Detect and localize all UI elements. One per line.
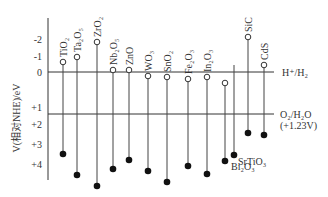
- conduction-band-marker: [60, 59, 66, 65]
- material-label: ZrO₂: [92, 17, 103, 37]
- valence-band-marker: [145, 168, 152, 175]
- conduction-band-marker: [126, 67, 132, 73]
- valence-band-marker: [245, 130, 252, 137]
- conduction-band-marker: [145, 73, 151, 79]
- material-label: Ta₂O₅: [72, 28, 83, 52]
- valence-band-marker: [60, 151, 67, 158]
- y-tick-label: +3: [31, 139, 42, 150]
- material-label: WO₃: [143, 51, 154, 71]
- valence-band-marker: [74, 172, 81, 179]
- material-band: Ta₂O₅: [72, 28, 83, 178]
- material-label: SiC: [243, 17, 254, 32]
- o2-h2o-sublabel: (+1.23V): [280, 120, 317, 132]
- valence-band-marker: [164, 179, 171, 186]
- conduction-band-marker: [110, 67, 116, 73]
- material-label: Nb₂O₅: [108, 39, 119, 65]
- conduction-band-marker: [204, 74, 210, 80]
- y-axis-ticks: -2-10+1+2+3+4: [31, 34, 42, 170]
- material-label: CdS: [259, 43, 270, 60]
- material-band: TiO₂: [58, 38, 69, 158]
- material-band: WO₃: [143, 51, 154, 174]
- material-label: SnO₂: [162, 51, 173, 72]
- material-band: SiC: [243, 17, 254, 137]
- material-label: TiO₂: [58, 38, 69, 57]
- conduction-band-marker: [164, 74, 170, 80]
- valence-band-marker: [94, 183, 101, 190]
- valence-band-marker: [231, 152, 238, 159]
- material-band: Fe₂O₃: [183, 50, 194, 170]
- conduction-band-marker: [74, 54, 80, 60]
- material-band: Nb₂O₅: [108, 39, 119, 173]
- h-plus-h2-label: H⁺/H₂: [282, 67, 308, 78]
- valence-band-marker: [110, 166, 117, 173]
- valence-band-marker: [261, 132, 268, 139]
- conduction-band-marker: [245, 34, 251, 40]
- valence-band-marker: [126, 157, 133, 164]
- conduction-band-marker: [185, 76, 191, 82]
- material-band: ZrO₂: [92, 17, 103, 189]
- valence-band-marker: [185, 163, 192, 170]
- y-tick-label: -1: [34, 51, 42, 62]
- material-label: ZnO: [124, 47, 135, 65]
- conduction-band-marker: [222, 80, 228, 86]
- conduction-band-marker: [261, 62, 267, 68]
- material-band: SnO₂: [162, 51, 173, 186]
- y-tick-label: +1: [31, 102, 42, 113]
- o2-h2o-label: O₂/H₂O: [280, 109, 311, 120]
- y-axis-label: V(相对NHE)/eV: [10, 83, 23, 153]
- valence-band-marker: [204, 171, 211, 178]
- conduction-band-marker: [94, 39, 100, 45]
- material-bands: TiO₂Ta₂O₅ZrO₂Nb₂O₅ZnOWO₃SnO₂Fe₂O₃In₂O₃Bi…: [58, 17, 270, 190]
- y-tick-label: +4: [31, 159, 42, 170]
- band-diagram: V(相对NHE)/eV -2-10+1+2+3+4 H⁺/H₂ O₂/H₂O (…: [0, 0, 328, 197]
- y-tick-label: +2: [31, 119, 42, 130]
- material-band: In₂O₃: [202, 49, 213, 177]
- material-band: CdS: [259, 43, 270, 139]
- material-label: SrTiO₃: [238, 156, 266, 167]
- material-band: ZnO: [124, 47, 135, 164]
- material-label: Fe₂O₃: [183, 50, 194, 74]
- y-tick-label: 0: [37, 67, 42, 78]
- valence-band-marker: [222, 158, 229, 165]
- material-label: In₂O₃: [202, 49, 213, 72]
- y-tick-label: -2: [34, 34, 42, 45]
